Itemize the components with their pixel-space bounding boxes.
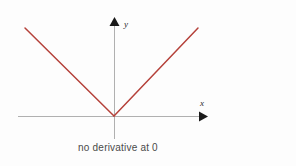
x-axis-label: x xyxy=(199,98,204,108)
abs-curve-right-branch xyxy=(114,28,198,116)
x-axis-arrowhead xyxy=(199,112,208,122)
y-axis-label: y xyxy=(123,19,128,29)
abs-curve-left-branch xyxy=(25,28,114,116)
figure-caption: no derivative at 0 xyxy=(0,142,236,153)
figure-container: y x no derivative at 0 xyxy=(0,0,296,166)
y-axis-arrowhead xyxy=(110,17,120,26)
